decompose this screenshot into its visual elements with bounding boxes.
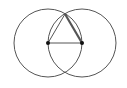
point-b [80, 41, 84, 45]
segment-cb [65, 14, 82, 43]
segments-group [48, 14, 82, 43]
segment-ac [48, 14, 65, 43]
geometry-diagram [0, 0, 127, 88]
point-a [46, 41, 50, 45]
